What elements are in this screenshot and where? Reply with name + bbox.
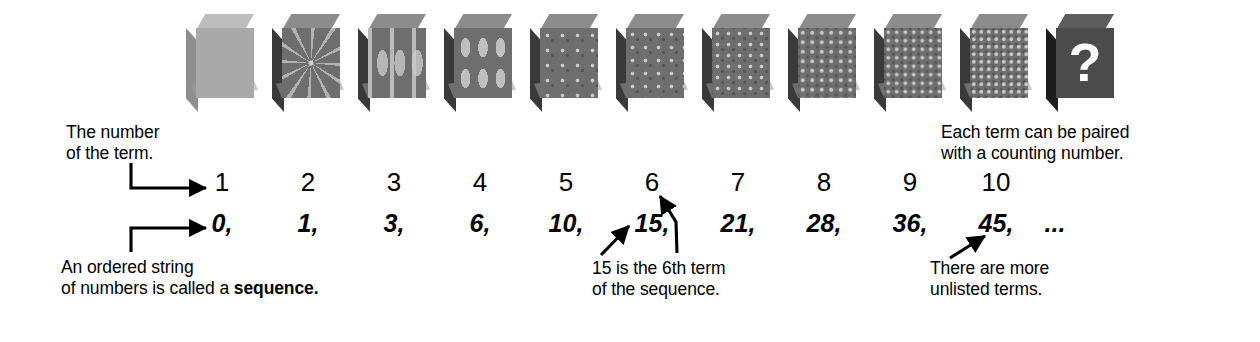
cube-front-face <box>282 28 340 98</box>
term-index-row: 1 2 3 4 5 6 7 8 9 10 <box>186 166 1130 200</box>
annotation-sixth-term: 15 is the 6th term of the sequence. <box>592 258 725 300</box>
term-index-5: 5 <box>530 166 602 198</box>
cube-front-face <box>196 28 254 98</box>
term-value-8: 28, <box>788 207 860 239</box>
cube-front-face <box>970 28 1028 98</box>
vertical-lobes-texture <box>368 28 426 98</box>
cube-front-face <box>454 28 512 98</box>
question-mark-icon: ? <box>1069 35 1102 89</box>
fine-lattice-texture <box>712 28 770 98</box>
term-index-8: 8 <box>788 166 860 198</box>
cube-step-11-unknown: ? <box>1046 14 1118 114</box>
cube-step-3 <box>358 14 430 114</box>
term-index-9: 9 <box>874 166 946 198</box>
paired-lobes-texture <box>454 28 512 98</box>
finer-lattice-texture <box>798 28 856 98</box>
cube-step-10 <box>960 14 1032 114</box>
term-value-3: 3, <box>358 207 430 239</box>
term-value-9: 36, <box>874 207 946 239</box>
cube-row: ? <box>186 14 1130 118</box>
cube-front-face: ? <box>1056 28 1114 98</box>
sequence-value-row: 0, 1, 3, 6, 10, 15, 21, 28, 36, 45, ... <box>186 207 1130 241</box>
term-index-7: 7 <box>702 166 774 198</box>
cube-front-face <box>712 28 770 98</box>
diagram-canvas: ? 1 2 3 4 5 6 7 8 9 10 0, 1, 3, 6, 10, 1… <box>0 0 1260 342</box>
cube-step-4 <box>444 14 516 114</box>
lattice-texture <box>626 28 684 98</box>
sequence-ellipsis: ... <box>1032 207 1078 239</box>
annotation-term-number: The number of the term. <box>66 122 159 164</box>
annotation-sequence: An ordered string of numbers is called a… <box>61 257 319 299</box>
cube-front-face <box>368 28 426 98</box>
annotation-sequence-text: An ordered string of numbers is called a <box>61 257 234 298</box>
term-index-6: 6 <box>616 166 688 198</box>
term-value-5: 10, <box>530 207 602 239</box>
term-value-10: 45, <box>960 207 1032 239</box>
term-index-3: 3 <box>358 166 430 198</box>
term-index-2: 2 <box>272 166 344 198</box>
cube-front-face <box>540 28 598 98</box>
cube-step-8 <box>788 14 860 114</box>
annotation-sequence-keyword: sequence. <box>234 278 319 298</box>
term-value-1: 0, <box>186 207 258 239</box>
cube-step-6 <box>616 14 688 114</box>
term-value-4: 6, <box>444 207 516 239</box>
cube-front-face <box>884 28 942 98</box>
term-index-10: 10 <box>960 166 1032 198</box>
term-value-2: 1, <box>272 207 344 239</box>
cube-step-2 <box>272 14 344 114</box>
cube-front-face <box>798 28 856 98</box>
coarse-lattice-texture <box>540 28 598 98</box>
term-value-6: 15, <box>616 207 688 239</box>
dense-lattice-texture <box>884 28 942 98</box>
annotation-paired-counting-number: Each term can be paired with a counting … <box>941 122 1129 164</box>
term-index-1: 1 <box>186 166 258 198</box>
term-value-7: 21, <box>702 207 774 239</box>
densest-lattice-texture <box>970 28 1028 98</box>
cube-step-1 <box>186 14 258 114</box>
cube-step-7 <box>702 14 774 114</box>
cube-front-face <box>626 28 684 98</box>
term-index-4: 4 <box>444 166 516 198</box>
cube-step-9 <box>874 14 946 114</box>
annotation-unlisted-terms: There are more unlisted terms. <box>930 258 1049 300</box>
woven-strands-texture <box>282 28 340 98</box>
cube-step-5 <box>530 14 602 114</box>
